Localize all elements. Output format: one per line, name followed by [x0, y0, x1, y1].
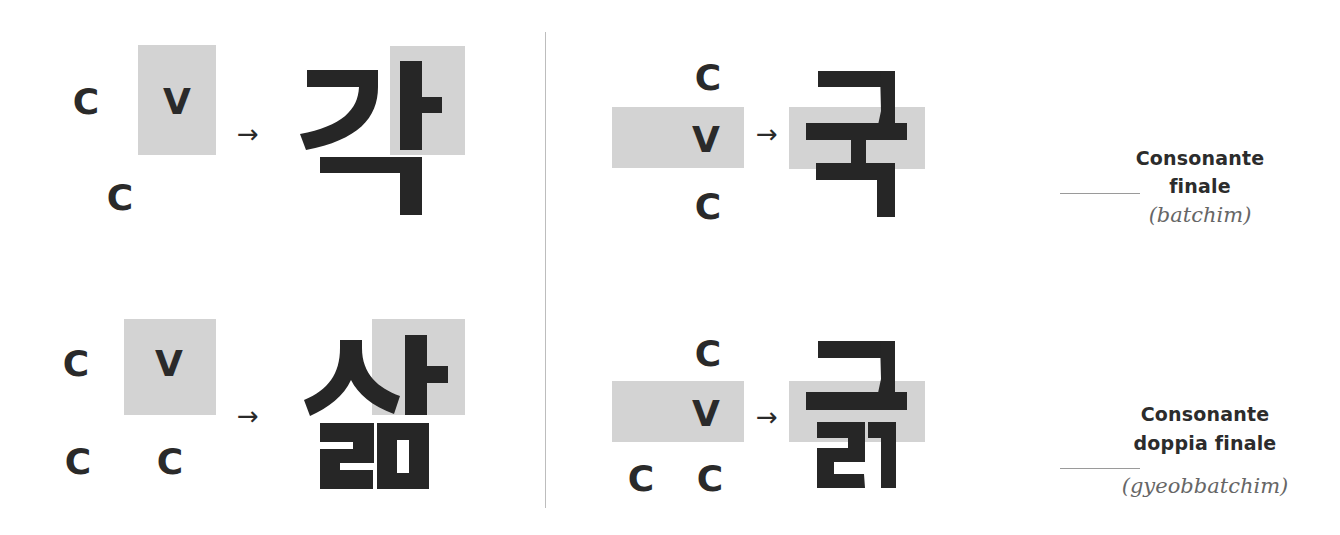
final-consonant-letter-2: C	[150, 444, 190, 480]
arrow-icon: →	[237, 121, 259, 147]
label-title-line2: doppia finale	[1120, 429, 1290, 457]
jamo-giyeok-final-stem	[881, 422, 896, 488]
jamo-giyeok-final-stem	[400, 157, 422, 215]
final-consonant-letter-1: C	[58, 444, 98, 480]
jamo-giyeok-initial-stem	[878, 71, 896, 125]
jamo-u-stem	[851, 140, 866, 164]
jamo-a-vertical	[405, 335, 427, 415]
jamo-eu-bar	[806, 392, 907, 410]
final-consonant-letter-1: C	[621, 461, 661, 497]
vowel-letter: V	[686, 396, 726, 432]
jamo-a-stub	[427, 366, 448, 383]
initial-consonant-letter: C	[688, 336, 728, 372]
vowel-letter: V	[157, 84, 197, 120]
jamo-mieum-icon	[377, 423, 429, 489]
label-term: (batchim)	[1120, 201, 1280, 229]
initial-consonant-letter: C	[66, 84, 106, 120]
label-title-line1: Consonante	[1120, 144, 1280, 172]
jamo-giyeok-initial-icon	[298, 68, 380, 152]
arrow-icon: →	[756, 121, 778, 147]
arrow-icon: →	[237, 403, 259, 429]
label-leader-line	[1060, 468, 1140, 469]
jamo-u-bar	[806, 123, 907, 140]
initial-consonant-letter: C	[688, 60, 728, 96]
final-consonant-letter: C	[688, 189, 728, 225]
initial-consonant-letter: C	[56, 346, 96, 382]
jamo-rieul-icon	[320, 423, 374, 489]
label-title-line1: Consonante	[1120, 400, 1290, 428]
jamo-a-stub	[422, 97, 442, 113]
label-term: (gyeobbatchim)	[1110, 472, 1300, 500]
vowel-letter: V	[686, 122, 726, 158]
vowel-letter: V	[149, 346, 189, 382]
jamo-siot-icon	[304, 340, 400, 416]
vertical-divider	[545, 32, 546, 508]
jamo-giyeok-final-stem	[877, 163, 895, 217]
label-title-line2: finale	[1120, 172, 1280, 200]
final-consonant-letter-2: C	[690, 461, 730, 497]
jamo-giyeok-initial-stem	[878, 341, 896, 393]
final-consonant-letter: C	[100, 180, 140, 216]
jamo-rieul-icon	[817, 422, 865, 488]
jamo-a-vertical	[400, 61, 422, 150]
arrow-icon: →	[756, 404, 778, 430]
